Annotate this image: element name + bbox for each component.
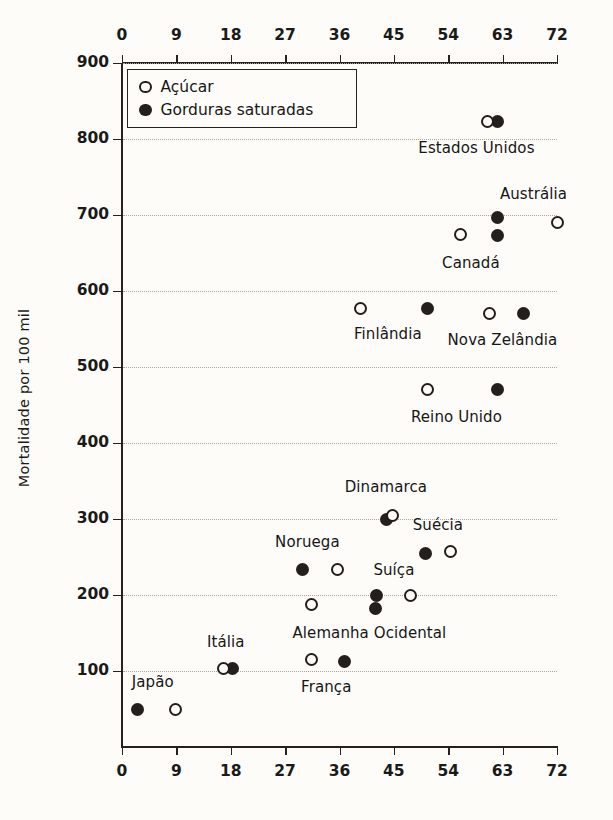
gridline: [123, 595, 557, 597]
x-axis-tick: [448, 55, 449, 63]
country-label: Canadá: [442, 254, 500, 272]
data-point-saturated-fats: [491, 383, 504, 396]
country-label: Reino Unido: [411, 408, 502, 426]
gridline: [123, 443, 557, 445]
gridline: [123, 519, 557, 521]
open-circle-icon: [139, 81, 152, 94]
data-point-saturated-fats: [419, 547, 432, 560]
data-point-sugar: [483, 307, 496, 320]
chart-legend: Açúcar Gorduras saturadas: [127, 69, 357, 128]
y-axis-tick: [113, 367, 122, 368]
x-axis-tick-label: 63: [483, 26, 523, 44]
data-point-saturated-fats: [338, 655, 351, 668]
x-axis-tick-label: 9: [156, 26, 196, 44]
x-axis-tick-label: 27: [265, 762, 305, 780]
gridline: [123, 63, 557, 65]
country-label: Japão: [132, 673, 174, 691]
x-axis-tick: [340, 55, 341, 63]
data-point-saturated-fats: [370, 589, 383, 602]
x-axis-tick-label: 18: [211, 762, 251, 780]
x-axis-tick-label: 72: [537, 26, 577, 44]
x-axis-tick: [285, 747, 286, 755]
country-label: Alemanha Ocidental: [292, 624, 446, 642]
y-axis-tick: [113, 139, 122, 140]
data-point-sugar: [354, 302, 367, 315]
x-axis-tick-label: 63: [483, 762, 523, 780]
filled-circle-icon: [139, 104, 152, 117]
x-axis-tick-label: 72: [537, 762, 577, 780]
y-axis-tick-label: 200: [63, 585, 109, 603]
x-axis-tick: [122, 747, 123, 755]
scatter-chart: 0918273645546372 0918273645546372 100200…: [0, 0, 613, 820]
y-axis-tick: [113, 443, 122, 444]
y-axis-tick-label: 700: [63, 205, 109, 223]
country-label: Itália: [207, 633, 245, 651]
gridline: [123, 671, 557, 673]
y-axis-tick-label: 100: [63, 661, 109, 679]
y-axis-tick: [113, 291, 122, 292]
gridline: [123, 291, 557, 293]
country-label: Austrália: [500, 185, 567, 203]
y-axis-tick-label: 300: [63, 509, 109, 527]
x-axis-tick-label: 36: [320, 26, 360, 44]
x-axis-tick: [394, 55, 395, 63]
x-axis-tick: [231, 55, 232, 63]
x-axis-tick: [231, 747, 232, 755]
x-axis-tick-label: 18: [211, 26, 251, 44]
y-axis-line: [121, 63, 123, 748]
data-point-sugar: [551, 216, 564, 229]
x-axis-tick-label: 36: [320, 762, 360, 780]
x-axis-tick: [122, 55, 123, 63]
legend-item-sugar: Açúcar: [139, 76, 214, 98]
data-point-sugar: [444, 545, 457, 558]
x-axis-tick-label: 27: [265, 26, 305, 44]
x-axis-tick-label: 54: [428, 762, 468, 780]
y-axis-title: Mortalidade por 100 mil: [16, 278, 32, 518]
country-label: Suécia: [413, 516, 463, 534]
y-axis-tick: [113, 519, 122, 520]
gridline: [123, 367, 557, 369]
country-label: Finlândia: [354, 325, 422, 343]
data-point-saturated-fats: [131, 703, 144, 716]
data-point-saturated-fats: [491, 211, 504, 224]
y-axis-tick-labels: 100200300400500600700800900: [57, 0, 109, 820]
data-point-sugar: [404, 589, 417, 602]
x-axis-tick-label: 54: [428, 26, 468, 44]
x-axis-tick: [176, 55, 177, 63]
legend-label-saturated-fats: Gorduras saturadas: [161, 101, 314, 119]
x-axis-tick: [503, 55, 504, 63]
data-point-saturated-fats: [369, 602, 382, 615]
data-point-saturated-fats: [296, 563, 309, 576]
data-point-sugar: [305, 653, 318, 666]
y-axis-tick: [113, 595, 122, 596]
x-axis-tick-label: 9: [156, 762, 196, 780]
y-axis-tick-label: 900: [63, 53, 109, 71]
x-axis-tick: [557, 55, 558, 63]
x-axis-tick: [503, 747, 504, 755]
data-point-saturated-fats: [491, 229, 504, 242]
x-axis-tick-label: 45: [374, 762, 414, 780]
x-axis-tick-label: 45: [374, 26, 414, 44]
data-point-saturated-fats: [421, 302, 434, 315]
data-point-saturated-fats: [517, 307, 530, 320]
y-axis-tick-label: 600: [63, 281, 109, 299]
y-axis-tick-label: 800: [63, 129, 109, 147]
data-point-sugar: [331, 563, 344, 576]
country-label: França: [301, 678, 351, 696]
x-axis-tick: [448, 747, 449, 755]
data-point-sugar: [421, 383, 434, 396]
y-axis-tick-label: 400: [63, 433, 109, 451]
data-point-sugar: [454, 228, 467, 241]
country-label: Dinamarca: [345, 478, 427, 496]
x-axis-tick: [340, 747, 341, 755]
country-label: Suíça: [373, 561, 414, 579]
country-label: Noruega: [275, 533, 340, 551]
data-point-sugar: [305, 598, 318, 611]
y-axis-tick-label: 500: [63, 357, 109, 375]
legend-item-saturated-fats: Gorduras saturadas: [139, 99, 313, 121]
country-label: Nova Zelândia: [448, 331, 558, 349]
y-axis-tick: [113, 215, 122, 216]
x-axis-tick: [176, 747, 177, 755]
data-point-sugar: [386, 509, 399, 522]
x-axis-tick: [285, 55, 286, 63]
